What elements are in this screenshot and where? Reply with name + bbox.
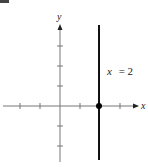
y-axis: y [56,11,63,162]
line-label-eq: = 2 [119,65,133,77]
x-axis: x [3,100,146,111]
graph-figure: x y x = 2 [0,0,148,167]
y-axis-arrow-icon [58,24,63,30]
x-axis-arrow-icon [133,104,139,109]
y-axis-label: y [56,11,62,22]
corner-mark [0,0,9,3]
x-axis-label: x [140,100,146,111]
line-label-var: x [106,65,112,77]
x-intercept-point [96,103,102,109]
line-label: x = 2 [106,65,133,77]
